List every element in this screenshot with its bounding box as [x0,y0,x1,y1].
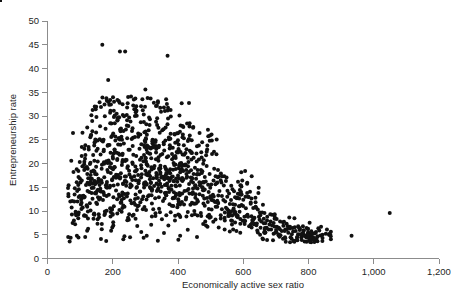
data-point [159,153,163,157]
data-point [273,217,277,221]
data-point [305,232,309,236]
data-point [115,157,119,161]
data-point [87,147,91,151]
data-point [197,180,201,184]
data-point [152,101,156,105]
data-point [134,169,138,173]
data-point [72,218,76,222]
data-point [102,175,106,179]
data-point [126,101,130,105]
data-point [86,189,90,193]
data-point [109,103,113,107]
data-point [136,196,140,200]
data-point [135,208,139,212]
data-point [194,201,198,205]
data-point [94,201,98,205]
data-point [308,221,312,225]
data-point [171,175,175,179]
data-point [102,162,106,166]
data-point [73,222,77,226]
data-point [78,160,82,164]
data-point [178,234,182,238]
data-point [302,228,306,232]
data-point [164,97,168,101]
data-point [191,126,195,130]
data-point [141,195,145,199]
data-point [205,148,209,152]
data-point [115,211,119,215]
x-tick-label: 800 [301,266,317,277]
data-point [187,170,191,174]
data-point [149,181,153,185]
data-point [145,162,149,166]
data-point [128,120,132,124]
data-point [115,197,119,201]
data-point [158,210,162,214]
data-point [125,123,129,127]
data-point [271,238,275,242]
data-point [229,184,233,188]
data-point [131,144,135,148]
data-point [95,222,99,226]
data-point [265,238,269,242]
data-point [154,120,158,124]
data-points-layer [0,0,392,244]
data-point [0,0,2,2]
data-point [111,132,115,136]
data-point [237,204,241,208]
data-point [103,103,107,107]
data-point [149,165,153,169]
data-point [246,195,250,199]
data-point [147,151,151,155]
y-tick-label: 0 [34,253,39,264]
data-point [142,236,146,240]
data-point [100,95,104,99]
data-point [135,114,139,118]
data-point [91,197,95,201]
data-point [89,173,93,177]
data-point [187,137,191,141]
data-point [139,104,143,108]
data-point [200,169,204,173]
data-point [241,219,245,223]
data-point [128,185,132,189]
data-point [259,219,263,223]
data-point [183,151,187,155]
data-point [110,166,114,170]
data-point [273,212,277,216]
data-point [71,170,75,174]
data-point [98,100,102,104]
data-point [91,153,95,157]
data-point [99,153,103,157]
data-point [239,185,243,189]
data-point [147,193,151,197]
data-point [116,182,120,186]
data-point [83,235,87,239]
data-point [225,207,229,211]
data-point [132,107,136,111]
data-point [127,115,131,119]
data-point [149,156,153,160]
data-point [134,217,138,221]
data-point [111,195,115,199]
data-point [220,207,224,211]
data-point [99,105,103,109]
data-point [253,196,257,200]
data-point [290,232,294,236]
data-point [308,240,312,244]
data-point [223,219,227,223]
data-point [258,210,262,214]
data-point [207,207,211,211]
data-point [111,213,115,217]
data-point [93,191,97,195]
data-point [196,168,200,172]
data-point [134,192,138,196]
data-point [113,139,117,143]
data-point [327,232,331,236]
data-point [85,126,89,130]
data-point [201,180,205,184]
data-point [181,124,185,128]
data-point [186,210,190,214]
data-point [124,174,128,178]
data-point [187,101,191,105]
